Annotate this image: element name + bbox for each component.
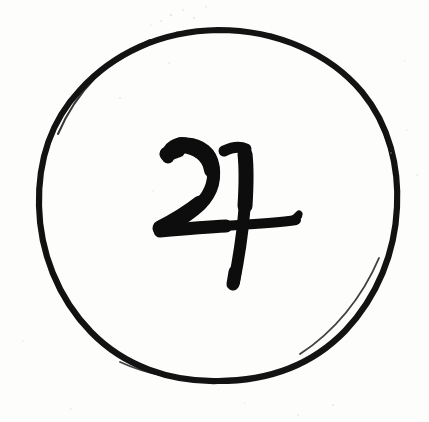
paper-background <box>0 0 429 422</box>
scanned-image-canvas: Jupiter astrological symbol 24 ♃ Hand-dr… <box>0 0 429 422</box>
ink-drawing <box>0 0 429 422</box>
